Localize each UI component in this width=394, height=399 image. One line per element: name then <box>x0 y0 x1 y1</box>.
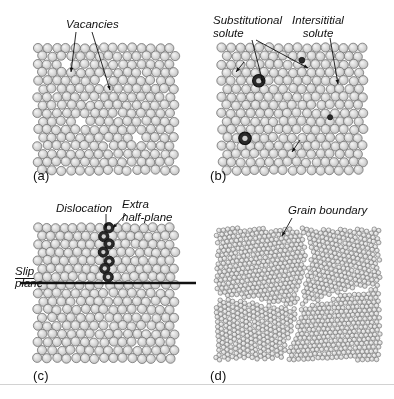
vacancies-label: Vacancies <box>66 18 119 31</box>
bottom-divider <box>0 384 394 385</box>
lattice-render-canvas <box>0 0 394 399</box>
panel-letter-solutes: (b) <box>210 168 227 183</box>
substitutional-solute-label: Substitutional solute <box>213 14 282 40</box>
extra-half-plane-label: Extra half-plane <box>122 198 173 224</box>
panel-letter-dislocation: (c) <box>33 368 49 383</box>
panel-letter-vacancies: (a) <box>33 168 50 183</box>
interstitial-solute-label: Intersititial solute <box>292 14 344 40</box>
slip-plane-label-2: plane <box>15 277 43 290</box>
panel-letter-grain-boundary: (d) <box>210 368 227 383</box>
crystal-defects-figure: (a)Vacancies(b)Substitutional soluteInte… <box>0 0 394 399</box>
grain-boundary-label: Grain boundary <box>288 204 367 217</box>
dislocation-label: Dislocation <box>56 202 112 215</box>
